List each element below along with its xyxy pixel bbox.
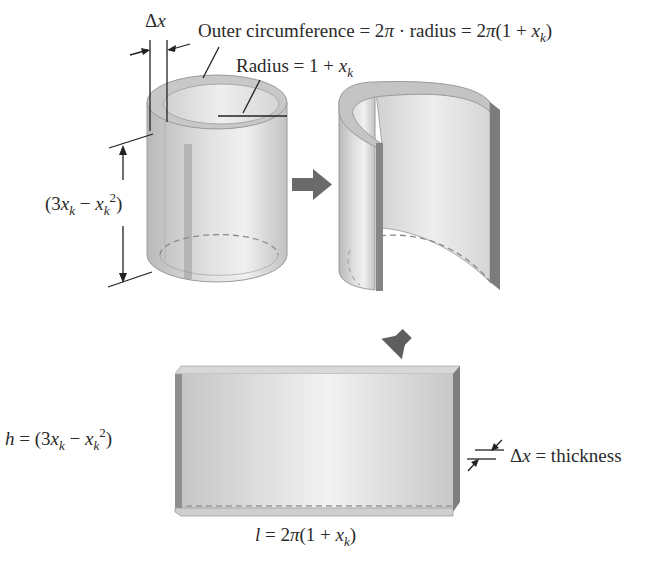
- cylindrical-shell: [147, 75, 287, 282]
- outer-circumference-label: Outer circumference = 2π · radius = 2π(1…: [198, 20, 552, 45]
- slab-side-face: [453, 366, 460, 512]
- slab-top-face: [175, 366, 460, 374]
- opened-shell-cut-edge: [376, 143, 383, 291]
- slab-length-label: l = 2π(1 + xk): [255, 524, 356, 549]
- delta-x-label: Δx: [145, 10, 166, 31]
- thickness-dimension: [467, 440, 504, 471]
- shell-method-diagram: Δx Outer circumference = 2π · radius = 2…: [0, 0, 667, 584]
- thickness-label: Δx = thickness: [510, 445, 622, 466]
- radius-label: Radius = 1 + xk: [236, 55, 353, 80]
- shell-height-dimension: [108, 134, 153, 287]
- opened-shell-right-edge: [490, 102, 500, 290]
- cylinder-inner-opening: [163, 84, 279, 124]
- shell-height-label: (3xk − xk2): [45, 190, 122, 218]
- flat-slab: [175, 366, 460, 516]
- down-left-arrow-icon: [381, 323, 417, 359]
- right-arrow-icon: [292, 169, 332, 200]
- opened-shell-inner-surface: [375, 83, 490, 282]
- slab-height-label: h = (3xk − xk2): [5, 425, 112, 453]
- opened-shell: [339, 82, 500, 291]
- diagram-canvas: Δx Outer circumference = 2π · radius = 2…: [0, 0, 667, 584]
- slab-front-face: [175, 374, 453, 508]
- cylinder-thickness-band: [184, 144, 192, 279]
